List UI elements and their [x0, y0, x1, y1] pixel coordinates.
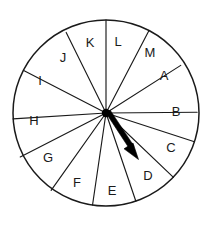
sector-divider [106, 112, 197, 113]
sector-label-k: K [86, 35, 95, 50]
sector-label-b: B [172, 104, 181, 119]
spinner-hub [102, 109, 110, 117]
sector-label-e: E [108, 183, 117, 198]
sector-label-c: C [166, 140, 175, 155]
spinner-figure: Spinner wheel with 13 equal sectors labe… [0, 0, 210, 228]
spinner-wheel-graphic[interactable]: Spinner wheel with 13 equal sectors labe… [0, 0, 210, 228]
sector-label-h: H [29, 113, 38, 128]
sector-label-f: F [73, 175, 81, 190]
sector-label-j: J [60, 50, 67, 65]
sector-label-g: G [43, 150, 53, 165]
sector-label-a: A [160, 68, 169, 83]
sector-label-i: I [38, 73, 42, 88]
sector-label-m: M [145, 45, 156, 60]
sector-label-l: L [114, 34, 121, 49]
sector-label-d: D [143, 168, 152, 183]
